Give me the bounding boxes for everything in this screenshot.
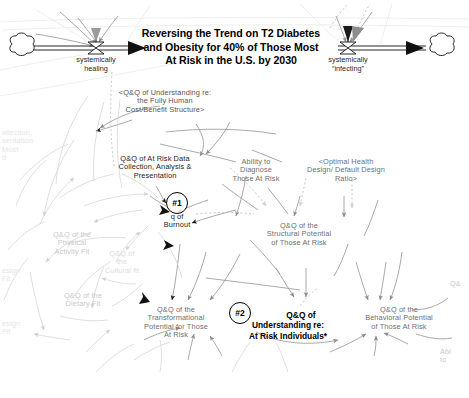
- node-transformational-potential: Q&Q of the Transformational Potential fo…: [124, 306, 228, 339]
- node-behavioral-potential: Q&Q of the Behavioral Potential of Those…: [343, 306, 455, 331]
- node-understanding-at-risk-individuals: Q&Q of Understanding re: At Risk Individ…: [228, 310, 348, 341]
- node-line-2: to: [440, 356, 466, 364]
- cloud-sink: [430, 33, 454, 56]
- causal-loop-diagram: Reversing the Trend on T2 Diabetes and O…: [0, 0, 469, 398]
- node-line-4: At Risk: [124, 331, 228, 339]
- node-clipped-design-fit-upper: esign Fit: [2, 267, 36, 284]
- flow-label-line-2: “infecting”: [308, 65, 388, 74]
- diagram-title: Reversing the Trend on T2 Diabetes and O…: [127, 27, 335, 68]
- node-burnout: q of Burnout: [152, 213, 202, 230]
- flow-label-systemically-healing: systemically healing: [56, 56, 136, 73]
- node-understanding-cost-benefit: <Q&Q of Understanding re: the Fully Huma…: [101, 89, 229, 114]
- title-line-3: At Risk in the U.S. by 2030: [127, 54, 335, 68]
- flow-label-line-2: healing: [56, 65, 136, 74]
- node-clipped-qq-right: Q&: [450, 280, 469, 288]
- node-line-3: Ratio>: [284, 175, 408, 183]
- node-optimal-health-design-ratio: <Optimal Health Design/ Default Design R…: [284, 158, 408, 183]
- node-line-3: Most: [2, 146, 52, 154]
- node-line-2: Understanding re:: [228, 320, 348, 330]
- node-clipped-ability-right: Abi to: [440, 348, 466, 365]
- node-dietary-fit: Q&Q of the Dietary Fit: [50, 292, 116, 309]
- node-line-2: Burnout: [152, 221, 202, 229]
- node-line-1: Q&Q of: [254, 310, 348, 320]
- node-line-1: Q&: [450, 280, 469, 288]
- node-line-3: Presentation: [101, 172, 209, 180]
- loop-marker-1: #1: [166, 192, 188, 214]
- node-line-4: d: [2, 154, 52, 162]
- node-line-2: Fit: [2, 275, 36, 283]
- node-at-risk-data-collection: Q&Q of At Risk Data Collection, Analysis…: [101, 155, 209, 180]
- node-line-3: of Those At Risk: [343, 323, 455, 331]
- node-line-3: Those At Risk: [219, 175, 293, 183]
- node-line-2: Dietary Fit: [50, 300, 116, 308]
- node-clipped-design-fit-lower: esign Fit: [2, 320, 36, 337]
- node-line-3: Cultural fit: [95, 267, 149, 275]
- node-line-3: of Those At Risk: [243, 239, 355, 247]
- node-line-3: At Risk Individuals*: [228, 331, 348, 341]
- flow-label-systemically-infecting: systemically “infecting”: [308, 56, 388, 73]
- title-line-1: Reversing the Trend on T2 Diabetes: [127, 27, 335, 41]
- node-line-2: Fit: [2, 328, 36, 336]
- node-line-3: Cost/Benefit Structure>: [101, 106, 229, 114]
- node-clipped-collection-left: ollection, sentation Most d: [2, 129, 52, 162]
- node-cultural-fit: Q&Q of the Cultural fit: [95, 250, 149, 275]
- node-ability-to-diagnose: Ability to Diagnose Those At Risk: [219, 158, 293, 183]
- title-line-2: and Obesity for 40% of Those Most: [127, 41, 335, 55]
- node-structural-potential: Q&Q of the Structural Potential of Those…: [243, 222, 355, 247]
- cloud-source: [10, 33, 34, 56]
